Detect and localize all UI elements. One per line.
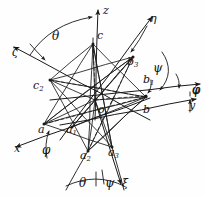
point-b1-label: b1 <box>143 74 154 87</box>
figure-canvas: zζηxyξφcc2b3b1boaa1a2a3θψφφθψ <box>0 0 205 197</box>
point-a1-label: a1 <box>66 124 77 137</box>
point-a3-label: a3 <box>108 147 119 160</box>
z-axis-label: z <box>103 5 109 16</box>
point-o-label: o <box>98 104 105 115</box>
phi-right-label: φ <box>192 84 200 96</box>
eta-axis-label: η <box>150 13 157 24</box>
x-axis-label: x <box>14 143 20 154</box>
eta-direction-arc <box>131 26 147 52</box>
psi-bottom-label: ψ <box>105 177 114 189</box>
point-a1-label-subscript: 1 <box>73 129 77 137</box>
theta-bottom-label: θ <box>79 177 86 189</box>
xi-axis-label: ξ <box>122 178 128 189</box>
point-c2-label: c2 <box>33 80 44 93</box>
xi-tick-right <box>102 170 104 184</box>
point-c-dot <box>92 43 95 46</box>
point-c2-dot <box>49 79 52 82</box>
point-a2-label: a2 <box>80 150 91 163</box>
point-b-dot <box>145 96 148 99</box>
point-b1-label-subscript: 1 <box>150 79 154 87</box>
point-c2-label-subscript: 2 <box>39 85 43 93</box>
phi-left-label: φ <box>42 144 50 156</box>
point-o-dot <box>94 99 97 102</box>
axis-tick-marks <box>93 38 190 186</box>
point-a-label: a <box>38 124 45 135</box>
zeta-axis-label: ζ <box>12 47 18 58</box>
point-a2-label-subscript: 2 <box>87 155 91 163</box>
theta-top-label: θ <box>52 30 59 42</box>
point-b3-label-subscript: 3 <box>134 61 138 69</box>
point-c-label: c <box>97 30 103 41</box>
psi-right-label: ψ <box>153 62 162 74</box>
point-b3-label: b3 <box>127 56 138 69</box>
theta-top-arc <box>30 17 92 55</box>
axes-layer <box>14 10 200 184</box>
y-axis-label: y <box>189 100 195 111</box>
point-a3-label-subscript: 3 <box>115 152 119 160</box>
bracket-arc <box>66 179 124 186</box>
eta-axis <box>60 17 152 140</box>
point-b-label: b <box>143 104 150 115</box>
